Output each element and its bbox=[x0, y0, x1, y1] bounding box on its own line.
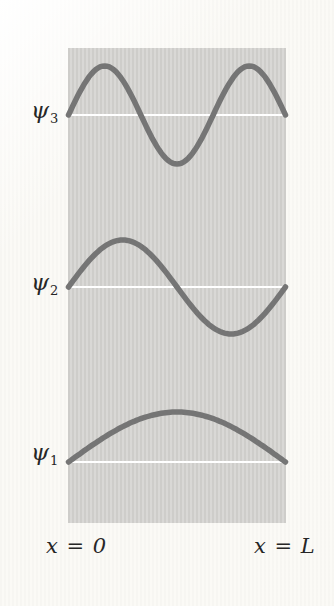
textbook-figure-page: ψ3 ψ2 ψ1 x = 0 x = L bbox=[0, 0, 334, 606]
x-equals-L-label: x = L bbox=[254, 534, 316, 559]
psi-2-label: ψ2 bbox=[31, 271, 58, 297]
x-equals-0-label: x = 0 bbox=[46, 534, 107, 559]
wavefunction-curve-psi-1 bbox=[69, 412, 286, 462]
psi-1-subscript: 1 bbox=[50, 453, 58, 468]
psi-3-symbol: ψ bbox=[31, 97, 49, 123]
wavefunction-plot bbox=[0, 0, 334, 606]
psi-3-subscript: 3 bbox=[50, 111, 58, 126]
psi-1-label: ψ1 bbox=[31, 441, 58, 467]
psi-3-label: ψ3 bbox=[31, 99, 58, 125]
psi-1-symbol: ψ bbox=[31, 439, 49, 465]
psi-2-symbol: ψ bbox=[31, 269, 49, 295]
psi-2-subscript: 2 bbox=[50, 283, 58, 298]
